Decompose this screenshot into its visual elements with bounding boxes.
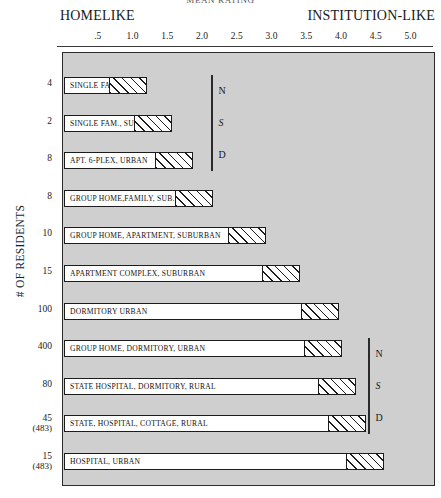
bar-row: GROUP HOME, APARTMENT, SUBURBAN [64,227,266,244]
bar-row: GROUP HOME, DORMITORY, URBAN [64,340,342,357]
x-axis-tick-3.5: 3.5 [300,31,312,41]
bar-body: SINGLE FAM., SUB. [64,115,134,132]
bar-row: STATE HOSPITAL, DORMITORY, RURAL [64,378,356,395]
residents-count: 4 [47,78,52,88]
residents-value: 80 [43,380,53,390]
bar-body: APARTMENT COMPLEX, SUBURBAN [64,265,262,282]
x-axis-tick-2.0: 2.0 [196,31,208,41]
residents-count: 15 [43,451,53,461]
x-axis-tick-5.0: 5.0 [405,31,417,41]
bar-label: SINGLE FAM., URB. [70,81,109,90]
x-axis-tick-1.5: 1.5 [161,31,173,41]
chart-title: MEAN RATING [0,0,441,5]
bar-row: HOSPITAL, URBAN [64,453,384,470]
bar-label: APARTMENT COMPLEX, SUBURBAN [70,269,205,278]
significance-bracket: NSD [211,75,226,171]
bar-label: SINGLE FAM., SUB. [70,119,134,128]
residents-count: 8 [47,191,52,201]
axis-pole-label-right: INSTITUTION-LIKE [307,8,435,24]
residents-value: 2 [47,117,52,127]
bar-label: STATE, HOSPITAL, COTTAGE, RURAL [70,419,208,428]
bar-body: STATE HOSPITAL, DORMITORY, RURAL [64,378,318,395]
bar-row: DORMITORY URBAN [64,303,339,320]
residents-total: (483) [33,424,53,433]
chart-container: MEAN RATING HOMELIKE INSTITUTION-LIKE .5… [0,0,441,498]
x-axis-tick-2.5: 2.5 [231,31,243,41]
bar-body: GROUP HOME,FAMILY, SUB. [64,190,175,207]
bar-label: GROUP HOME, DORMITORY, URBAN [70,344,205,353]
residents-count: 8 [47,153,52,163]
x-axis-rule [57,46,433,47]
residents-total: (483) [33,462,53,471]
x-axis-tick-labels: .51.01.52.02.53.03.54.04.55.0 [0,31,441,45]
residents-count: 2 [47,116,52,126]
residents-count: 10 [43,228,53,238]
bar-row: GROUP HOME,FAMILY, SUB. [64,190,213,207]
bar-hatched-cap [228,227,266,244]
residents-count: 15 [43,266,53,276]
x-axis-tick-3.0: 3.0 [266,31,278,41]
bar-body: HOSPITAL, URBAN [64,453,346,470]
residents-value: 4 [47,79,52,89]
residents-value: 100 [38,305,52,315]
bar-row: SINGLE FAM., URB. [64,77,147,94]
bar-label: GROUP HOME, APARTMENT, SUBURBAN [70,231,221,240]
axis-pole-label-left: HOMELIKE [60,8,135,24]
bar-body: APT. 6-PLEX, URBAN [64,152,155,169]
bar-hatched-cap [304,340,342,357]
bracket-letter: S [219,118,226,128]
plot-area: SINGLE FAM., URB.SINGLE FAM., SUB.APT. 6… [62,52,435,486]
bar-body: STATE, HOSPITAL, COTTAGE, RURAL [64,415,328,432]
bar-body: DORMITORY URBAN [64,303,301,320]
bar-row: SINGLE FAM., SUB. [64,115,172,132]
residents-count: 45 [43,413,53,423]
x-axis-tick-4.0: 4.0 [335,31,347,41]
x-axis-tick-1.0: 1.0 [127,31,139,41]
residents-value: 15(483) [33,452,53,471]
bar-hatched-cap [262,265,300,282]
significance-bracket: NSD [368,338,383,434]
bar-row: STATE, HOSPITAL, COTTAGE, RURAL [64,415,366,432]
bar-hatched-cap [175,190,213,207]
bar-label: HOSPITAL, URBAN [70,457,140,466]
bar-row: APARTMENT COMPLEX, SUBURBAN [64,265,300,282]
residents-value: 45(483) [33,414,53,433]
bar-label: APT. 6-PLEX, URBAN [70,156,148,165]
bar-hatched-cap [134,115,172,132]
residents-count: 80 [43,379,53,389]
y-axis-value-column: 428810151004008045(483)15(483) [0,52,58,484]
x-axis-tick-.5: .5 [94,31,101,41]
bar-hatched-cap [109,77,147,94]
bracket-letter: N [376,349,383,359]
bar-body: SINGLE FAM., URB. [64,77,109,94]
bar-hatched-cap [301,303,339,320]
residents-value: 15 [43,267,53,277]
bar-row: APT. 6-PLEX, URBAN [64,152,193,169]
residents-value: 400 [38,342,52,352]
bracket-letter: D [219,150,226,160]
residents-value: 10 [43,229,53,239]
bar-body: GROUP HOME, DORMITORY, URBAN [64,340,304,357]
bar-hatched-cap [318,378,356,395]
bar-label: DORMITORY URBAN [70,307,147,316]
bracket-letter: N [219,86,226,96]
bracket-letter: D [376,413,383,423]
bar-hatched-cap [346,453,384,470]
bracket-letters: NSD [370,338,383,434]
bar-label: GROUP HOME,FAMILY, SUB. [70,194,175,203]
bar-hatched-cap [155,152,193,169]
bar-hatched-cap [328,415,366,432]
residents-count: 400 [38,341,52,351]
bar-body: GROUP HOME, APARTMENT, SUBURBAN [64,227,228,244]
residents-count: 100 [38,304,52,314]
bracket-letter: S [376,381,383,391]
residents-value: 8 [47,154,52,164]
x-axis-tick-4.5: 4.5 [370,31,382,41]
bar-label: STATE HOSPITAL, DORMITORY, RURAL [70,382,216,391]
bracket-letters: NSD [213,75,226,171]
residents-value: 8 [47,192,52,202]
